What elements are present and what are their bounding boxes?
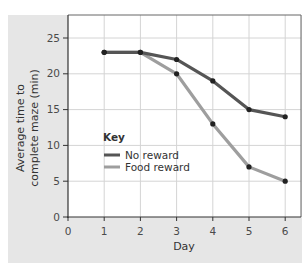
x-tick-label: 1 xyxy=(101,225,108,237)
x-tick-label: 0 xyxy=(65,225,72,237)
plot-area xyxy=(68,15,301,217)
legend-label-food-reward: Food reward xyxy=(125,161,190,173)
data-point xyxy=(210,121,215,126)
y-tick-label: 5 xyxy=(53,175,60,187)
data-point xyxy=(246,107,251,112)
y-axis-title-line2: complete maze (min) xyxy=(28,69,41,187)
line-chart: 01234560510152025 Day Average time to co… xyxy=(0,0,306,270)
x-tick-label: 4 xyxy=(209,225,216,237)
data-point xyxy=(283,179,288,184)
y-axis-title: Average time to complete maze (min) xyxy=(14,69,41,187)
y-axis-title-line1: Average time to xyxy=(14,84,27,172)
x-tick-label: 2 xyxy=(137,225,144,237)
legend-title: Key xyxy=(103,131,125,143)
x-tick-label: 5 xyxy=(246,225,253,237)
data-point xyxy=(138,50,143,55)
x-axis-title: Day xyxy=(173,240,195,253)
data-point xyxy=(210,78,215,83)
y-tick-label: 10 xyxy=(47,139,60,151)
data-point xyxy=(283,114,288,119)
y-tick-label: 20 xyxy=(47,67,60,79)
x-tick-label: 3 xyxy=(173,225,180,237)
x-tick-label: 6 xyxy=(282,225,289,237)
data-point xyxy=(174,71,179,76)
y-tick-label: 25 xyxy=(47,32,60,44)
data-point xyxy=(174,57,179,62)
data-point xyxy=(246,164,251,169)
data-point xyxy=(102,50,107,55)
y-tick-label: 15 xyxy=(47,103,60,115)
legend-label-no-reward: No reward xyxy=(125,149,179,161)
y-tick-label: 0 xyxy=(53,211,60,223)
